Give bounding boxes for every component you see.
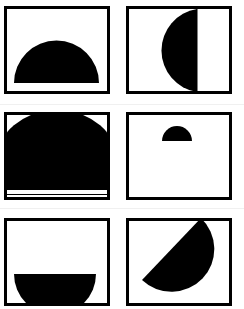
semicircle-shape-icon — [126, 112, 232, 200]
semicircle-shape-icon — [4, 6, 110, 94]
semicircle-shape-icon — [4, 218, 110, 306]
panel-bottom-right — [126, 218, 232, 306]
semicircle-shape-icon — [126, 218, 232, 306]
panel-bottom-left — [4, 218, 110, 306]
semicircle-shape-icon — [4, 112, 110, 200]
semicircle-shape-icon — [126, 6, 232, 94]
row-divider-2 — [0, 208, 244, 209]
panel-middle-right — [126, 112, 232, 200]
panel-top-left — [4, 6, 110, 94]
panel-middle-left — [4, 112, 110, 200]
panel-top-right — [126, 6, 232, 94]
row-divider-1 — [0, 104, 244, 105]
